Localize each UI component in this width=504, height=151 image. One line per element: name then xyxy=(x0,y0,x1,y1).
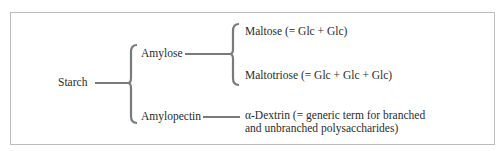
brace-starch xyxy=(128,45,137,123)
node-starch: Starch xyxy=(58,76,87,89)
node-amylose: Amylose xyxy=(141,47,183,60)
brace-amylose xyxy=(230,24,239,85)
node-maltotriose: Maltotriose (= Glc + Glc + Glc) xyxy=(245,69,392,82)
node-amylopectin: Amylopectin xyxy=(141,110,201,123)
node-dextrin-line1: α-Dextrin (= generic term for branched xyxy=(245,109,425,122)
node-maltose: Maltose (= Glc + Glc) xyxy=(245,25,347,38)
node-dextrin-line2: and unbranched polysaccharides) xyxy=(245,122,398,135)
